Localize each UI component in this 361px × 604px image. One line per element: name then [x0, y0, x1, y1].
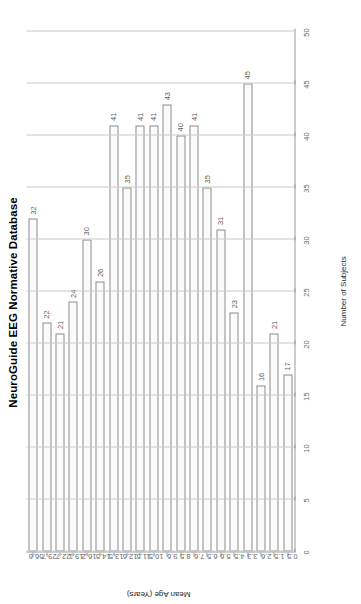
bar[interactable]: [243, 83, 252, 551]
category-tick-label: 56.6: [28, 551, 43, 560]
bar[interactable]: [256, 385, 265, 551]
bars-group: 1721164523313541404341413541263024212232: [26, 32, 294, 551]
value-tick-label: 10: [301, 435, 310, 461]
bar-value-label: 41: [108, 112, 117, 120]
category-tick-label: 14.5: [95, 551, 110, 560]
value-tick-mark: [294, 236, 295, 240]
bar[interactable]: [28, 218, 37, 551]
gridline: [26, 342, 294, 343]
bar-value-label: 21: [269, 320, 278, 328]
bar-value-label: 31: [215, 216, 224, 224]
category-tick-label: 13.5: [108, 551, 123, 560]
category-tick-label: 1.5: [273, 551, 283, 560]
bar-value-label: 17: [282, 362, 291, 370]
gridline: [26, 186, 294, 187]
value-tick-mark: [294, 80, 295, 84]
bar[interactable]: [68, 301, 77, 551]
chart-title: NeuroGuide EEG Normative Database: [6, 0, 18, 604]
category-tick-label: 8.5: [180, 551, 190, 560]
category-tick-label: 4.5: [233, 551, 243, 560]
category-tick-label: 12.6: [122, 551, 137, 560]
value-tick-label: 5: [301, 487, 310, 513]
value-tick-label: 35: [301, 175, 310, 201]
category-tick-label: 5.6: [220, 551, 230, 560]
value-axis-label: Number of Subjects: [338, 256, 347, 326]
category-tick-label: 0.5: [287, 551, 297, 560]
category-tick-label: 6.5: [206, 551, 216, 560]
value-tick-label: 15: [301, 383, 310, 409]
bar[interactable]: [55, 333, 64, 551]
bar[interactable]: [229, 312, 238, 551]
bar-value-label: 30: [81, 227, 90, 235]
gridline: [26, 82, 294, 83]
bar-value-label: 35: [122, 175, 131, 183]
value-tick-mark: [294, 184, 295, 188]
bar[interactable]: [202, 187, 211, 551]
category-tick-label: 11.5: [136, 551, 150, 560]
category-tick-label: 3.3: [247, 551, 257, 560]
gridline: [26, 290, 294, 291]
bar[interactable]: [95, 281, 104, 551]
value-tick-mark: [294, 496, 295, 500]
value-tick-label: 0: [301, 539, 310, 565]
value-tick-label: 45: [301, 71, 310, 97]
bar[interactable]: [122, 187, 131, 551]
value-tick-label: 30: [301, 227, 310, 253]
bar-value-label: 26: [95, 268, 104, 276]
category-tick-label: 22.7: [55, 551, 70, 560]
bar[interactable]: [42, 322, 51, 551]
value-tick-label: 40: [301, 123, 310, 149]
bar-value-label: 22: [41, 310, 50, 318]
bar-value-label: 21: [55, 320, 64, 328]
bar[interactable]: [269, 333, 278, 551]
bar-value-label: 41: [135, 112, 144, 120]
bar[interactable]: [149, 125, 158, 551]
value-tick-label: 50: [301, 19, 310, 45]
value-tick-label: 25: [301, 279, 310, 305]
value-tick-mark: [294, 392, 295, 396]
bar[interactable]: [162, 104, 171, 551]
category-tick-label: 2.6: [260, 551, 270, 560]
bar-value-label: 45: [242, 71, 251, 79]
value-tick-mark: [294, 132, 295, 136]
bar-value-label: 35: [202, 175, 211, 183]
category-tick-label: 29.7: [41, 551, 56, 560]
gridline: [26, 238, 294, 239]
bar-value-label: 41: [148, 112, 157, 120]
value-tick-mark: [294, 340, 295, 344]
bar[interactable]: [283, 374, 292, 551]
gridline: [26, 30, 294, 31]
category-tick-label: 10.5: [149, 551, 164, 560]
category-tick-label: 16.2: [82, 551, 97, 560]
bar[interactable]: [189, 125, 198, 551]
gridline: [26, 134, 294, 135]
bar-value-label: 23: [229, 299, 238, 307]
value-tick-label: 20: [301, 331, 310, 357]
bar-value-label: 43: [162, 91, 171, 99]
category-tick-label: 9.6: [166, 551, 176, 560]
bar[interactable]: [216, 229, 225, 551]
bar-value-label: 16: [256, 372, 265, 380]
bar-value-label: 40: [175, 123, 184, 131]
bar-value-label: 41: [189, 112, 198, 120]
category-tick-label: 7.6: [193, 551, 203, 560]
value-tick-mark: [294, 28, 295, 32]
gridline: [26, 498, 294, 499]
chart-stage: NeuroGuide EEG Normative Database 172116…: [0, 0, 361, 604]
bar[interactable]: [109, 125, 118, 551]
bar[interactable]: [135, 125, 144, 551]
value-tick-mark: [294, 288, 295, 292]
gridline: [26, 446, 294, 447]
rotated-figure-wrapper: NeuroGuide EEG Normative Database 172116…: [0, 0, 361, 604]
plot-area: 1721164523313541404341413541263024212232: [26, 32, 294, 552]
gridline: [26, 394, 294, 395]
value-tick-mark: [294, 444, 295, 448]
category-axis-label: Mean Age (Years): [126, 589, 190, 598]
bar-value-label: 32: [28, 206, 37, 214]
bar-chart-figure: NeuroGuide EEG Normative Database 172116…: [0, 0, 361, 604]
